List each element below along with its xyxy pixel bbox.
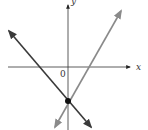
coordinate-diagram: x y 0 [0,0,148,130]
origin-label: 0 [60,69,66,79]
decreasing-line [9,31,91,127]
intersection-point [65,98,71,104]
y-axis-label: y [70,0,77,6]
x-axis-label: x [136,62,141,72]
